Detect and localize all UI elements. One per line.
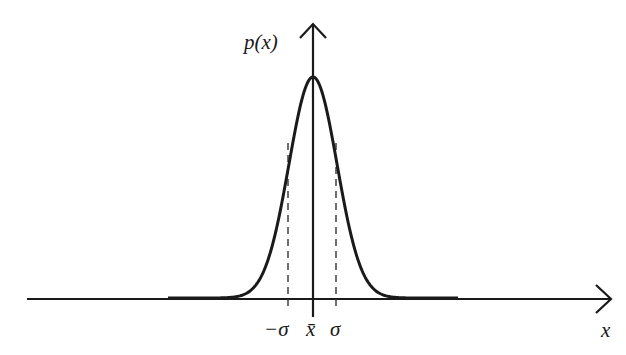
x-axis-label: x	[601, 320, 610, 341]
minus-sigma-label: −σ	[264, 319, 289, 340]
y-axis-label: p(x)	[244, 32, 278, 53]
mean-label: x̄	[306, 319, 315, 340]
sigma-label: σ	[330, 319, 340, 340]
gaussian-diagram	[0, 0, 626, 355]
